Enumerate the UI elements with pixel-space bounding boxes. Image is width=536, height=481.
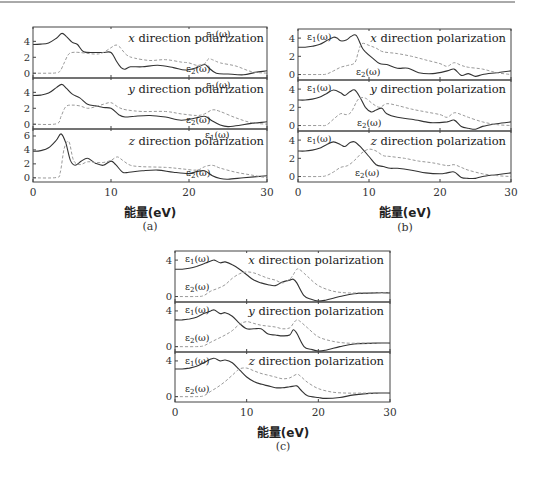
y-tick-label: 0: [289, 69, 295, 80]
x-tick-label: 0: [295, 186, 302, 198]
y-tick-label: 0: [166, 391, 172, 402]
y-tick-label: 0: [166, 291, 172, 302]
subplot-b-3: 024z direction polarizationε1(ω)ε2(ω): [289, 131, 511, 182]
epsilon2-label: ε2(ω): [186, 167, 211, 180]
y-tick-label: 2: [289, 102, 295, 113]
epsilon2-curve: [298, 98, 511, 126]
x-tick-label: 10: [362, 186, 375, 198]
polarization-annotation: y direction polarization: [127, 82, 264, 96]
epsilon1-label: ε1(ω): [185, 253, 210, 266]
epsilon2-label: ε2(ω): [355, 167, 380, 180]
x-tick-label: 30: [504, 186, 517, 198]
y-tick-label: 2: [24, 52, 30, 63]
panel-a-xlabel: 能量(eV): [100, 203, 200, 220]
y-tick-label: 2: [24, 158, 30, 169]
epsilon1-label: ε1(ω): [185, 304, 210, 317]
epsilon2-curve: [298, 43, 511, 74]
epsilon2-curve: [33, 45, 267, 73]
x-tick-label: 10: [240, 406, 253, 418]
y-tick-label: 4: [166, 355, 172, 366]
x-tick-label: 20: [312, 406, 325, 418]
y-tick-label: 4: [166, 255, 172, 266]
y-tick-label: 4: [289, 33, 295, 44]
subplot-c-3: 04z direction polarizationε1(ω)ε2(ω): [166, 352, 390, 402]
subplot-c-2: 04y direction polarizationε1(ω)ε2(ω): [166, 302, 390, 352]
epsilon2-label: ε2(ω): [356, 66, 381, 79]
polarization-annotation: x direction polarization: [128, 31, 264, 45]
panel-b-caption: (b): [380, 221, 430, 234]
subplot-b-1: 024x direction polarizationε1(ω)ε2(ω): [289, 29, 511, 80]
y-tick-label: 2: [289, 51, 295, 62]
polarization-annotation: z direction polarization: [248, 354, 385, 368]
panel-b-xlabel: 能量(eV): [355, 203, 455, 220]
y-tick-label: 0: [166, 341, 172, 352]
panel-c-xlabel: 能量(eV): [233, 423, 333, 440]
x-tick-label: 10: [104, 186, 117, 198]
epsilon2-label: ε2(ω): [186, 114, 211, 127]
figure-canvas: 024x direction polarizationε1(ω)ε2(ω)024…: [0, 0, 536, 481]
y-tick-label: 4: [289, 84, 295, 95]
epsilon2-label: ε2(ω): [185, 332, 210, 345]
epsilon1-label: ε1(ω): [307, 31, 332, 44]
x-tick-label: 30: [383, 406, 396, 418]
y-tick-label: 0: [24, 119, 30, 130]
y-tick-label: 2: [24, 103, 30, 114]
x-tick-label: 0: [172, 406, 179, 418]
epsilon2-curve: [298, 149, 511, 176]
epsilon2-curve: [33, 103, 267, 125]
subplot-c-1: 04x direction polarizationε1(ω)ε2(ω): [166, 251, 390, 302]
y-tick-label: 4: [289, 135, 295, 146]
x-tick-label: 20: [433, 186, 446, 198]
polarization-annotation: z direction polarization: [370, 134, 507, 148]
panel-c-caption: (c): [258, 440, 308, 453]
subplot-a-1: 024x direction polarizationε1(ω)ε2(ω): [24, 27, 267, 79]
subplot-b-2: 024y direction polarizationε1(ω)ε2(ω): [289, 80, 511, 131]
y-tick-label: 0: [289, 120, 295, 131]
y-tick-label: 0: [24, 172, 30, 183]
y-tick-label: 4: [166, 305, 172, 316]
epsilon2-label: ε2(ω): [185, 383, 210, 396]
y-tick-label: 0: [24, 68, 30, 79]
y-tick-label: 6: [24, 130, 30, 141]
subplot-a-3: 0246z direction polarizationε1(ω)ε2(ω): [24, 129, 267, 183]
panel-a-chart: 024x direction polarizationε1(ω)ε2(ω)024…: [24, 27, 274, 198]
subplot-a-2: 024y direction polarizationε1(ω)ε2(ω): [24, 78, 267, 130]
polarization-annotation: x direction polarization: [248, 253, 384, 267]
epsilon2-label: ε2(ω): [186, 63, 211, 76]
y-tick-label: 4: [24, 87, 30, 98]
panel-b-chart: 024x direction polarizationε1(ω)ε2(ω)024…: [289, 29, 518, 198]
polarization-annotation: z direction polarization: [128, 134, 265, 148]
polarization-annotation: x direction polarization: [370, 31, 506, 45]
polarization-annotation: y direction polarization: [247, 304, 384, 318]
y-tick-label: 0: [289, 171, 295, 182]
x-tick-label: 20: [182, 186, 195, 198]
y-tick-label: 4: [24, 36, 30, 47]
panel-c-chart: 04x direction polarizationε1(ω)ε2(ω)04y …: [166, 251, 397, 418]
y-tick-label: 4: [24, 144, 30, 155]
polarization-annotation: y direction polarization: [369, 82, 506, 96]
panel-a-caption: (a): [125, 220, 175, 233]
x-tick-label: 0: [30, 186, 37, 198]
epsilon2-label: ε2(ω): [185, 281, 210, 294]
y-tick-label: 2: [289, 153, 295, 164]
x-tick-label: 30: [260, 186, 273, 198]
